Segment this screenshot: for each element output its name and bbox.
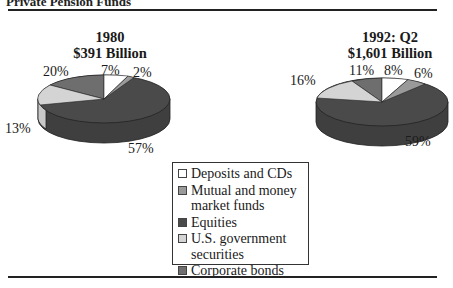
label-1992-mutual: 6% [414,66,433,82]
top-rule [8,9,437,11]
legend-item-equities: Equities [178,215,304,231]
chart-1980-title: 1980 $391 Billion [55,29,165,61]
pie-chart-1992 [314,76,453,166]
legend-label: Deposits and CDs [191,166,292,182]
swatch-mutual-icon [178,186,187,195]
label-1992-corporate: 11% [349,63,374,79]
label-1980-mutual: 2% [133,65,152,81]
chart-1980-year: 1980 [55,29,165,45]
legend-item-usgov: U.S. government securities [178,231,304,262]
swatch-deposits-icon [178,169,187,178]
chart-1992-title: 1992: Q2 $1,601 Billion [325,29,453,61]
bottom-rule [8,276,437,278]
chart-1992-year: 1992: Q2 [325,29,453,45]
legend-label: U.S. government securities [191,231,304,262]
legend-item-deposits: Deposits and CDs [178,166,304,182]
legend: Deposits and CDs Mutual and money market… [172,162,309,265]
label-1980-corporate: 20% [43,64,69,80]
legend-label: Equities [191,215,237,231]
chart-1980-total: $391 Billion [55,45,165,61]
label-1992-usgov: 16% [290,73,316,89]
label-1992-equities: 59% [405,134,431,150]
label-1992-deposits: 8% [384,63,403,79]
swatch-corporate-icon [178,266,187,275]
legend-item-mutual: Mutual and money market funds [178,183,304,214]
legend-label: Mutual and money market funds [191,183,304,214]
chart-1992-total: $1,601 Billion [325,45,453,61]
label-1980-usgov: 13% [5,121,31,137]
swatch-usgov-icon [178,234,187,243]
label-1980-equities: 57% [128,141,154,157]
pie-chart-1980 [36,73,176,163]
swatch-equities-icon [178,218,187,227]
label-1980-deposits: 7% [101,63,120,79]
